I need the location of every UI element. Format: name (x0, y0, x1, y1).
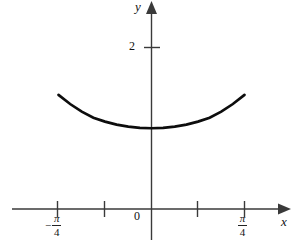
arrow-right-icon (278, 204, 291, 215)
fraction-denominator: 4 (239, 226, 247, 238)
x-tick-label-pi-over-4: π 4 (237, 213, 247, 238)
fraction-denominator: 4 (53, 226, 61, 238)
arrow-up-icon (146, 1, 157, 14)
fraction-numerator: π (53, 213, 61, 225)
plot-canvas (0, 0, 296, 246)
fraction-stack: π 4 (238, 213, 247, 238)
x-tick-label-neg-pi-over-4: − π 4 (45, 213, 61, 238)
y-tick-label-2: 2 (129, 40, 135, 52)
origin-label: 0 (134, 210, 140, 222)
x-axis-label: x (281, 215, 287, 228)
fraction-numerator: π (239, 213, 247, 225)
graph-figure: y x 0 2 − π 4 π 4 (0, 0, 296, 246)
minus-sign: − (45, 220, 51, 231)
fraction-stack: π 4 (52, 213, 61, 238)
y-axis-label: y (135, 0, 141, 13)
